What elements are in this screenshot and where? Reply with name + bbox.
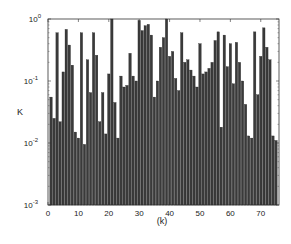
bar	[269, 60, 271, 205]
bar	[205, 72, 207, 205]
bar	[108, 74, 110, 205]
bar	[208, 68, 210, 205]
bar	[105, 134, 107, 205]
bar	[101, 93, 103, 205]
bar	[95, 55, 97, 205]
bar	[62, 72, 64, 205]
bar	[165, 19, 167, 205]
bar	[147, 24, 149, 205]
bar	[50, 97, 52, 205]
bar	[71, 65, 73, 205]
bar	[177, 91, 179, 205]
bar	[92, 33, 94, 205]
bar	[162, 38, 164, 205]
bar	[260, 56, 262, 205]
bar	[89, 93, 91, 205]
bar	[253, 32, 255, 205]
x-axis-label: (k)	[157, 216, 168, 226]
bar	[132, 76, 134, 205]
x-tick-label: 50	[196, 209, 205, 218]
bar	[129, 53, 131, 205]
bar	[53, 118, 55, 205]
bar	[223, 35, 225, 205]
bar	[232, 84, 234, 205]
x-tick-label: 70	[256, 209, 265, 218]
bar	[65, 29, 67, 205]
bar	[266, 47, 268, 205]
bar	[238, 62, 240, 205]
bar	[123, 87, 125, 205]
bar	[229, 44, 231, 205]
bar	[202, 74, 204, 205]
x-tick-label: 60	[226, 209, 235, 218]
bar	[196, 87, 198, 205]
bar	[244, 104, 246, 205]
bar	[126, 85, 128, 205]
bar	[214, 41, 216, 206]
y-tick-label: 10-1	[24, 75, 39, 86]
bar	[226, 67, 228, 205]
y-tick-label: 10-2	[24, 137, 39, 148]
bars-group	[50, 19, 277, 205]
bar	[184, 62, 186, 205]
bar	[153, 97, 155, 205]
bar	[174, 78, 176, 205]
bar	[275, 140, 277, 205]
bar	[235, 42, 237, 205]
bar	[220, 127, 222, 205]
bar	[241, 81, 243, 205]
bar	[144, 26, 146, 205]
x-tick-label: 10	[74, 209, 83, 218]
bar	[111, 19, 113, 205]
bar	[83, 144, 85, 205]
y-tick-label: 10-3	[24, 199, 39, 210]
bar	[156, 81, 158, 205]
bar	[150, 35, 152, 205]
x-tick-label: 0	[46, 209, 51, 218]
bar	[168, 56, 170, 205]
bar	[135, 81, 137, 205]
bar-chart: 10-310-210-1100 010203040506070 K (k)	[0, 0, 291, 244]
bar	[272, 136, 274, 205]
bar	[199, 44, 201, 205]
bar	[257, 95, 259, 205]
bar	[181, 33, 183, 205]
x-tick-label: 20	[104, 209, 113, 218]
y-axis-label: K	[17, 107, 23, 117]
bar	[59, 122, 61, 205]
bar	[141, 31, 143, 205]
bar	[120, 76, 122, 205]
bar	[114, 103, 116, 206]
bar	[77, 138, 79, 205]
bar	[117, 138, 119, 205]
bar	[263, 28, 265, 205]
bar	[159, 47, 161, 205]
bar	[171, 51, 173, 205]
bar	[211, 62, 213, 205]
bar	[138, 20, 140, 205]
bar	[190, 70, 192, 205]
bar	[217, 32, 219, 205]
bar	[56, 33, 58, 205]
x-tick-label: 30	[135, 209, 144, 218]
bar	[187, 60, 189, 205]
bar	[193, 76, 195, 205]
bar	[68, 45, 70, 205]
bar	[247, 136, 249, 205]
bar	[98, 122, 100, 205]
bar	[80, 33, 82, 205]
bar	[86, 60, 88, 205]
y-tick-label: 100	[29, 13, 42, 24]
bar	[74, 132, 76, 205]
bar	[250, 138, 252, 205]
